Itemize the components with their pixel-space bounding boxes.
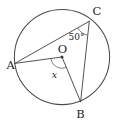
center-point-dot <box>61 56 64 59</box>
angle-label-x: x <box>52 69 58 80</box>
point-label-c: C <box>93 4 102 18</box>
point-label-o: O <box>58 42 67 56</box>
radius-ob <box>62 57 81 102</box>
chord-ac <box>15 21 90 63</box>
angle-label-50-degrees: 50° <box>69 32 85 42</box>
point-label-b: B <box>76 107 84 121</box>
point-label-a: A <box>6 58 16 72</box>
geometry-diagram-canvas: A C B O 50° x <box>0 0 118 120</box>
circle-geometry-figure: A C B O 50° x <box>0 0 118 120</box>
radius-oa <box>15 57 62 63</box>
